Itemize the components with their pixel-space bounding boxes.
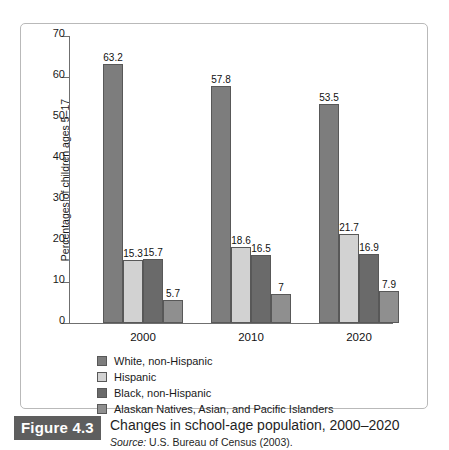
bar-value-label: 5.7: [166, 289, 180, 299]
y-axis-tick-label: 50: [53, 110, 65, 121]
legend-label: Black, non-Hispanic: [114, 388, 211, 399]
y-axis-tick-label: 0: [59, 315, 65, 326]
legend-label: Hispanic: [114, 372, 156, 383]
x-axis-category-label: 2010: [238, 331, 264, 343]
y-axis-tick-label: 30: [53, 192, 65, 203]
legend-item[interactable]: Alaskan Natives, Asian, and Pacific Isla…: [97, 402, 334, 416]
y-axis-tick-label: 40: [53, 151, 65, 162]
bar[interactable]: 16.9: [359, 254, 379, 323]
bar-value-label: 7.9: [382, 280, 396, 290]
y-axis-line: [69, 36, 70, 324]
bar[interactable]: 15.7: [143, 259, 163, 323]
y-axis-tick-label: 10: [53, 274, 65, 285]
bar[interactable]: 53.5: [319, 104, 339, 323]
legend-swatch-icon: [97, 388, 107, 398]
bar[interactable]: 7.9: [379, 291, 399, 323]
bar-value-label: 21.7: [339, 223, 358, 233]
x-axis-line: [69, 323, 393, 324]
chart-legend: White, non-HispanicHispanicBlack, non-Hi…: [97, 354, 334, 418]
x-axis-category-label: 2000: [130, 331, 156, 343]
figure-panel: Percentages of children ages 5–17 010203…: [20, 23, 428, 409]
legend-label: White, non-Hispanic: [114, 356, 212, 367]
bar-value-label: 16.5: [251, 244, 270, 254]
bar-value-label: 53.5: [319, 93, 338, 103]
figure-caption-title: Changes in school-age population, 2000–2…: [110, 417, 400, 434]
x-axis-category-label: 2020: [346, 331, 372, 343]
bar-value-label: 7: [278, 283, 284, 293]
bar[interactable]: 57.8: [211, 86, 231, 323]
bar[interactable]: 21.7: [339, 234, 359, 323]
bar-value-label: 15.7: [143, 248, 162, 258]
bar[interactable]: 18.6: [231, 247, 251, 323]
bar-group-2020: 53.521.716.97.92020: [319, 36, 399, 323]
legend-swatch-icon: [97, 404, 107, 414]
legend-label: Alaskan Natives, Asian, and Pacific Isla…: [114, 404, 334, 415]
bar[interactable]: 15.3: [123, 260, 143, 323]
source-prefix: Source:: [110, 436, 146, 448]
figure-caption: Figure 4.3 Changes in school-age populat…: [14, 416, 434, 450]
bar-value-label: 57.8: [211, 75, 230, 85]
bar-value-label: 15.3: [123, 249, 142, 259]
figure-source-line: Source: U.S. Bureau of Census (2003).: [110, 436, 293, 448]
bar[interactable]: 63.2: [103, 64, 123, 323]
bar[interactable]: 16.5: [251, 255, 271, 323]
legend-item[interactable]: Black, non-Hispanic: [97, 386, 334, 400]
y-axis-tick-label: 70: [53, 28, 65, 39]
figure-number-badge: Figure 4.3: [14, 416, 101, 440]
source-text: U.S. Bureau of Census (2003).: [146, 436, 293, 448]
bar-value-label: 16.9: [359, 243, 378, 253]
legend-swatch-icon: [97, 356, 107, 366]
bar[interactable]: 7: [271, 294, 291, 323]
bar-value-label: 18.6: [231, 236, 250, 246]
legend-swatch-icon: [97, 372, 107, 382]
y-axis-tick-label: 20: [53, 233, 65, 244]
legend-item[interactable]: White, non-Hispanic: [97, 354, 334, 368]
bar-group-2010: 57.818.616.572010: [211, 36, 291, 323]
legend-item[interactable]: Hispanic: [97, 370, 334, 384]
y-axis-tick-label: 60: [53, 69, 65, 80]
bar-value-label: 63.2: [103, 53, 122, 63]
bar-group-2000: 63.215.315.75.72000: [103, 36, 183, 323]
plot-area: Percentages of children ages 5–17 010203…: [69, 36, 405, 324]
bar[interactable]: 5.7: [163, 300, 183, 323]
